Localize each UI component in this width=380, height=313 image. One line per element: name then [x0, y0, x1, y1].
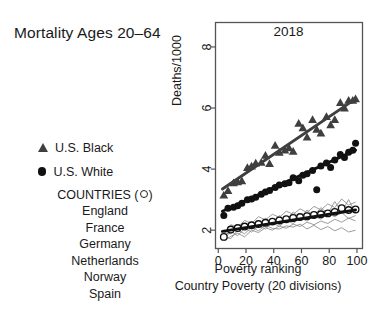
data-point-open-circle: [255, 221, 262, 228]
data-point-circle: [299, 172, 306, 179]
y-axis-label: Deaths/1000: [170, 35, 184, 106]
plot-title: 2018: [215, 24, 362, 39]
data-point-triangle: [271, 141, 280, 149]
country-line-england: [224, 199, 356, 235]
data-point-triangle: [237, 176, 246, 184]
legend-item-us-white: U.S. White: [30, 162, 180, 181]
data-point-circle: [258, 191, 265, 198]
data-point-triangle: [351, 95, 360, 103]
legend-item-us-black: U.S. Black: [30, 138, 180, 157]
y-tick-label: 2: [200, 227, 214, 234]
country-line-netherlands: [224, 213, 356, 240]
filled-triangle-icon: [38, 143, 48, 152]
data-point-triangle: [233, 178, 242, 186]
data-point-open-circle: [269, 218, 276, 225]
data-point-circle: [345, 149, 352, 156]
trend-line-u-s-white: [222, 150, 355, 211]
data-point-triangle: [312, 125, 321, 133]
data-point-triangle: [224, 186, 233, 194]
data-point-triangle: [257, 158, 266, 166]
data-point-triangle: [294, 119, 303, 127]
data-point-circle: [248, 196, 255, 203]
data-point-circle: [290, 174, 297, 181]
data-point-triangle: [317, 129, 326, 137]
data-point-open-circle: [276, 217, 283, 224]
list-item: France: [30, 220, 180, 237]
country-line-norway: [224, 218, 356, 241]
data-point-triangle: [229, 179, 238, 187]
data-point-open-circle: [290, 215, 297, 222]
data-point-circle: [327, 164, 334, 171]
country-line-spain: [224, 224, 356, 239]
mortality-figure: Mortality Ages 20–64 U.S. Black U.S. Whi…: [0, 0, 380, 313]
list-item: England: [30, 203, 180, 220]
data-point-open-circle: [248, 222, 255, 229]
figure-headline: Mortality Ages 20–64: [14, 24, 161, 42]
legend-countries-header-text: COUNTRIES (: [57, 188, 138, 202]
data-point-circle: [286, 179, 293, 186]
data-point-open-circle: [297, 214, 304, 221]
data-point-open-circle: [331, 209, 338, 216]
data-point-open-circle: [283, 216, 290, 223]
data-point-open-circle: [311, 212, 318, 219]
data-point-circle: [220, 212, 227, 219]
y-tick-label: 6: [200, 104, 214, 111]
country-line-france: [224, 208, 356, 239]
data-point-triangle: [285, 143, 294, 151]
filled-circle-icon: [38, 167, 46, 175]
data-point-circle: [349, 147, 356, 154]
data-point-circle: [266, 187, 273, 194]
data-point-circle: [230, 204, 237, 211]
data-point-open-circle: [234, 225, 241, 232]
data-point-open-circle: [221, 234, 228, 241]
data-point-open-circle: [325, 210, 332, 217]
data-point-triangle: [348, 96, 357, 104]
data-point-triangle: [322, 112, 331, 120]
x-axis-sublabel: Country Poverty (20 divisions): [68, 279, 380, 293]
data-point-circle: [341, 154, 348, 161]
list-item: Germany: [30, 236, 180, 253]
data-point-triangle: [298, 124, 307, 132]
data-point-triangle: [289, 147, 298, 155]
plot-content: [219, 95, 360, 241]
data-point-circle: [224, 205, 231, 212]
trend-line-u-s-black: [222, 99, 355, 189]
data-point-circle: [317, 163, 324, 170]
data-point-circle: [276, 181, 283, 188]
x-axis-label: Poverty ranking: [68, 262, 380, 276]
data-point-triangle: [280, 146, 289, 154]
data-point-triangle: [261, 151, 270, 159]
data-point-triangle: [344, 96, 353, 104]
plot-frame: [216, 23, 363, 249]
data-point-circle: [337, 151, 344, 158]
y-tick-label: 4: [200, 166, 214, 173]
data-point-circle: [238, 200, 245, 207]
data-point-triangle: [251, 159, 260, 167]
data-point-circle: [234, 202, 241, 209]
data-point-triangle: [275, 148, 284, 156]
data-point-triangle: [219, 191, 228, 199]
legend-label-us-white: U.S. White: [53, 165, 113, 179]
legend-label-us-black: U.S. Black: [55, 141, 113, 155]
data-point-open-circle: [318, 211, 325, 218]
data-point-circle: [262, 189, 269, 196]
data-point-open-circle: [338, 205, 345, 212]
data-point-circle: [352, 140, 359, 147]
data-point-triangle: [243, 163, 252, 171]
data-point-circle: [295, 177, 302, 184]
data-point-triangle: [340, 104, 349, 112]
data-point-open-circle: [241, 223, 248, 230]
open-circle-icon: [140, 190, 148, 198]
data-point-triangle: [330, 115, 339, 123]
chart-legend: U.S. Black U.S. White COUNTRIES () Engla…: [30, 138, 180, 302]
data-point-open-circle: [304, 213, 311, 220]
data-point-circle: [281, 180, 288, 187]
data-point-circle: [313, 186, 320, 193]
data-point-circle: [331, 156, 338, 163]
legend-countries-header-tail: ): [149, 188, 153, 202]
data-point-circle: [272, 184, 279, 191]
data-point-open-circle: [345, 207, 352, 214]
data-point-triangle: [308, 115, 317, 123]
data-point-circle: [244, 196, 251, 203]
data-point-open-circle: [262, 220, 269, 227]
